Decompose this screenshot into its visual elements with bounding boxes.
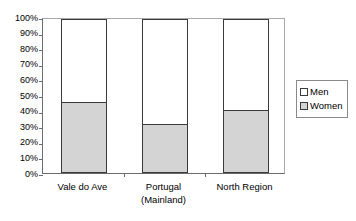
- chart-container: 100%90%80%70%60%50%40%30%20%10%0% Vale d…: [0, 0, 356, 221]
- y-axis-tick-mark: [39, 50, 43, 51]
- y-axis-tick-mark: [39, 66, 43, 67]
- y-axis-tick-label: 50%: [0, 92, 38, 101]
- y-axis-tick-label: 30%: [0, 123, 38, 132]
- legend-swatch-women-icon: [300, 102, 308, 110]
- y-axis-tick-label: 60%: [0, 76, 38, 85]
- bar-portugal-mainland[interactable]: [142, 19, 188, 173]
- y-axis-tick-label: 80%: [0, 45, 38, 54]
- y-axis-tick-label: 90%: [0, 29, 38, 38]
- x-axis-category-label-line: North Region: [185, 180, 305, 193]
- y-axis-tick-label: 20%: [0, 138, 38, 147]
- bar-segment-women[interactable]: [143, 124, 187, 172]
- legend-label: Men: [310, 87, 328, 97]
- plot-area: [42, 18, 285, 174]
- y-axis-tick-label: 40%: [0, 107, 38, 116]
- y-axis-tick-mark: [39, 159, 43, 160]
- bar-north-region[interactable]: [223, 19, 269, 173]
- y-axis-tick-mark: [39, 19, 43, 20]
- y-axis-tick-label: 100%: [0, 14, 38, 23]
- y-axis-tick-mark: [39, 81, 43, 82]
- y-axis-tick-mark: [39, 128, 43, 129]
- legend-swatch-men-icon: [300, 88, 308, 96]
- bar-vale-do-ave[interactable]: [61, 19, 107, 173]
- legend: MenWomen: [296, 80, 348, 118]
- y-axis-tick-mark: [39, 113, 43, 114]
- legend-label: Women: [310, 101, 343, 111]
- y-axis-tick-label: 10%: [0, 154, 38, 163]
- y-axis-tick-mark: [39, 35, 43, 36]
- x-axis-category-label-line: (Mainland): [104, 193, 224, 206]
- legend-item-women[interactable]: Women: [300, 99, 347, 113]
- y-axis-tick-label: 0%: [0, 170, 38, 179]
- y-axis-tick-mark: [39, 175, 43, 176]
- legend-item-men[interactable]: Men: [300, 85, 347, 99]
- x-axis-tick-mark: [124, 173, 125, 177]
- y-axis-tick-mark: [39, 144, 43, 145]
- y-axis-tick-label: 70%: [0, 60, 38, 69]
- x-axis-tick-mark: [205, 173, 206, 177]
- bar-segment-women[interactable]: [62, 102, 106, 172]
- y-axis-tick-mark: [39, 97, 43, 98]
- x-axis-category-label: North Region: [185, 180, 305, 193]
- bar-segment-women[interactable]: [224, 110, 268, 172]
